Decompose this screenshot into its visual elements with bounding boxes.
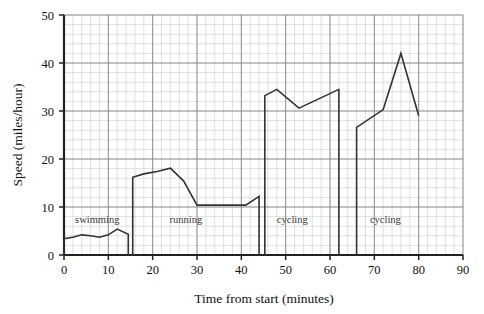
segment-label-running: running	[170, 214, 203, 225]
x-axis-title: Time from start (minutes)	[194, 291, 333, 306]
segment-label-cycling-2: cycling	[370, 214, 402, 225]
chart-canvas: 0102030405060708090 01020304050 swimming…	[0, 0, 484, 314]
series-line-cycling-1	[265, 89, 339, 255]
x-tick-label: 40	[235, 263, 248, 277]
x-tick-labels: 0102030405060708090	[61, 263, 469, 277]
series-line-running	[133, 168, 259, 255]
x-tick-label: 80	[412, 263, 425, 277]
x-tick-label: 50	[279, 263, 292, 277]
y-tick-label: 40	[42, 57, 55, 71]
y-tick-label: 50	[42, 9, 55, 23]
x-tick-label: 60	[324, 263, 337, 277]
segment-label-swimming: swimming	[75, 214, 120, 225]
axis-lines	[64, 15, 463, 255]
y-tick-labels: 01020304050	[42, 9, 55, 263]
y-tick-label: 10	[42, 201, 55, 215]
tick-marks	[59, 15, 463, 260]
major-gridlines	[64, 15, 463, 255]
y-tick-label: 0	[48, 249, 54, 263]
segment-label-cycling-1: cycling	[277, 214, 309, 225]
y-tick-label: 30	[42, 105, 55, 119]
x-tick-label: 70	[368, 263, 381, 277]
x-tick-label: 0	[61, 263, 67, 277]
speed-time-graph: 0102030405060708090 01020304050 swimming…	[0, 0, 484, 314]
x-tick-label: 10	[102, 263, 115, 277]
series-line-swimming	[64, 229, 128, 255]
y-axis-title: Speed (miles/hour)	[10, 83, 25, 186]
y-tick-label: 20	[42, 153, 55, 167]
x-tick-label: 90	[457, 263, 470, 277]
x-tick-label: 30	[191, 263, 204, 277]
x-tick-label: 20	[146, 263, 159, 277]
minor-gridlines	[64, 15, 463, 255]
segment-annotations: swimmingrunningcyclingcycling	[75, 214, 402, 225]
